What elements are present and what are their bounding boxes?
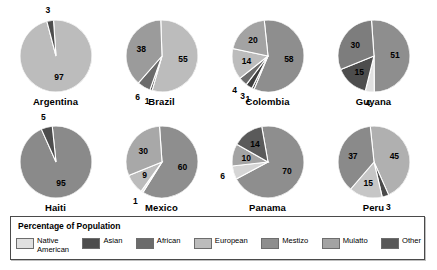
pie-value-label: 15 — [364, 179, 373, 188]
pie-value-label: 4 — [232, 85, 237, 94]
pie-country-label-panama: Panama — [215, 202, 320, 213]
pie-chart-guyana: 5141530Guyana — [321, 2, 426, 108]
legend-label-mestizo: Mestizo — [282, 237, 308, 246]
pie-wrap-peru: 4531537 — [338, 126, 410, 198]
legend-item-asian: Asian — [82, 237, 122, 249]
pie-value-label: 70 — [282, 167, 291, 176]
pie-wrap-guyana: 5141530 — [338, 20, 410, 92]
pie-value-label: 30 — [350, 40, 359, 49]
pie-value-label: 55 — [178, 54, 187, 63]
pie-value-label: 30 — [138, 146, 147, 155]
pie-chart-colombia: 581341420Colombia — [215, 2, 320, 108]
pie-value-label: 3 — [45, 5, 50, 14]
pie-value-label: 14 — [250, 140, 259, 149]
pie-value-label: 45 — [390, 152, 399, 161]
pie-value-label: 58 — [284, 55, 293, 64]
pie-country-label-argentina: Argentina — [3, 96, 108, 107]
pie-value-label: 97 — [54, 73, 63, 82]
pie-value-label: 37 — [348, 151, 357, 160]
pie-wrap-panama: 7061014 — [232, 126, 304, 198]
legend-item-native_american: Native American — [16, 237, 69, 254]
pie-chart-argentina: 973Argentina — [3, 2, 108, 108]
legend-swatch-other — [381, 238, 399, 249]
pie-wrap-haiti: 955 — [20, 126, 92, 198]
pie-value-label: 5 — [41, 112, 46, 121]
legend-label-european: European — [215, 237, 248, 246]
pie-value-label: 38 — [136, 45, 145, 54]
legend-item-african: African — [136, 237, 181, 249]
pie-wrap-mexico: 601930 — [126, 126, 198, 198]
legend-title: Percentage of Population — [18, 221, 121, 231]
pie-value-label: 10 — [242, 153, 251, 162]
pie-chart-haiti: 955Haiti — [3, 108, 108, 214]
pie-country-label-peru: Peru — [321, 202, 426, 213]
legend-item-mestizo: Mestizo — [261, 237, 308, 249]
legend-swatch-native_american — [16, 238, 34, 249]
legend-item-mulatto: Mulatto — [322, 237, 368, 249]
legend-swatch-asian — [82, 238, 100, 249]
pie-country-label-brazil: Brazil — [109, 96, 214, 107]
pie-country-label-colombia: Colombia — [215, 96, 320, 107]
legend-label-mulatto: Mulatto — [343, 237, 368, 246]
legend-swatch-mulatto — [322, 238, 340, 249]
legend-label-asian: Asian — [103, 237, 122, 246]
legend-swatch-african — [136, 238, 154, 249]
pie-country-label-haiti: Haiti — [3, 202, 108, 213]
pie-wrap-colombia: 581341420 — [232, 20, 304, 92]
population-pie-chart-figure: 973Argentina551638Brazil581341420Colombi… — [0, 0, 437, 270]
legend-label-african: African — [157, 237, 181, 246]
legend-item-european: European — [194, 237, 248, 249]
legend-item-other: Other — [381, 237, 421, 249]
pie-value-label: 6 — [220, 172, 225, 181]
pie-value-label: 95 — [56, 179, 65, 188]
pie-value-label: 9 — [142, 171, 147, 180]
pie-chart-panama: 7061014Panama — [215, 108, 320, 214]
legend-panel: Percentage of Population Native American… — [10, 216, 425, 260]
legend-items: Native AmericanAsianAfricanEuropeanMesti… — [16, 237, 421, 254]
pie-chart-grid: 973Argentina551638Brazil581341420Colombi… — [0, 0, 437, 212]
legend-label-native_american: Native American — [37, 237, 69, 254]
legend-swatch-european — [194, 238, 212, 249]
pie-chart-mexico: 601930Mexico — [109, 108, 214, 214]
pie-value-label: 20 — [248, 36, 257, 45]
pie-country-label-mexico: Mexico — [109, 202, 214, 213]
pie-wrap-brazil: 551638 — [126, 20, 198, 92]
pie-chart-brazil: 551638Brazil — [109, 2, 214, 108]
pie-value-label: 51 — [390, 51, 399, 60]
pie-value-label: 60 — [178, 163, 187, 172]
pie-graphic-peru — [338, 126, 410, 198]
pie-country-label-guyana: Guyana — [321, 96, 426, 107]
pie-chart-peru: 4531537Peru — [321, 108, 426, 214]
pie-value-label: 15 — [355, 68, 364, 77]
legend-swatch-mestizo — [261, 238, 279, 249]
pie-value-label: 14 — [242, 57, 251, 66]
pie-wrap-argentina: 973 — [20, 20, 92, 92]
legend-label-other: Other — [402, 237, 421, 246]
